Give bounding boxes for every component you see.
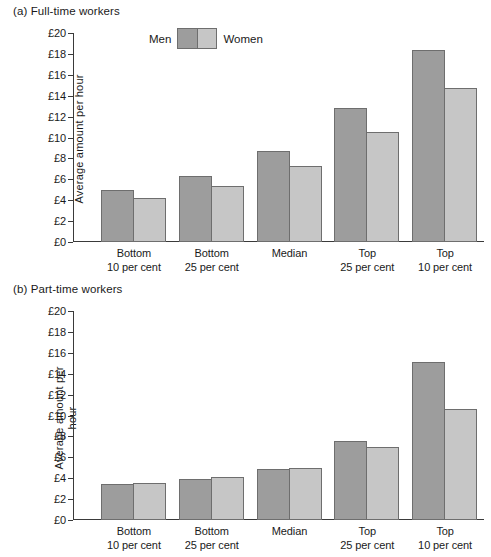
panel-b-plot-area: £20£18£16£14£12£10£8£6£4£2£0 Bottom 10 p… (73, 311, 484, 520)
y-axis-tick-label: £8 (54, 152, 66, 164)
y-axis-tick (68, 332, 73, 333)
y-axis-tick-label: £12 (48, 111, 66, 123)
bar-women-5 (444, 88, 477, 242)
chart-legend: Men Women (143, 28, 269, 49)
bar-group: Bottom 25 per cent (179, 33, 245, 242)
y-axis-tick-label: £2 (54, 493, 66, 505)
panel-a-y-axis-line (73, 33, 74, 242)
bar-men-2 (179, 479, 212, 520)
bar-women-1 (133, 483, 166, 520)
y-axis-tick-label: £4 (54, 194, 66, 206)
chart-panel-part-time: (b) Part-time workers Average amount per… (0, 278, 491, 557)
y-axis-tick-label: £14 (48, 368, 66, 380)
bar-men-5 (412, 50, 445, 242)
bar-group: Top 10 per cent (412, 33, 478, 242)
y-axis-tick-label: £12 (48, 389, 66, 401)
bar-men-3 (257, 469, 290, 520)
bar-men-2 (179, 176, 212, 242)
y-axis-tick (68, 179, 73, 180)
y-axis-tick-label: £20 (48, 27, 66, 39)
y-axis-tick (68, 96, 73, 97)
legend-label-women: Women (217, 33, 268, 45)
bar-group: Median (257, 311, 323, 520)
y-axis-tick (68, 520, 73, 521)
y-axis-tick-label: £10 (48, 132, 66, 144)
panel-b-title: (b) Part-time workers (13, 283, 122, 295)
legend-label-men: Men (143, 33, 177, 45)
y-axis-tick-label: £6 (54, 173, 66, 185)
bar-group: Top 25 per cent (334, 311, 400, 520)
y-axis-tick (68, 499, 73, 500)
panel-a-title: (a) Full-time workers (13, 5, 120, 17)
y-axis-tick (68, 416, 73, 417)
bar-women-3 (289, 166, 322, 242)
y-axis-tick-label: £0 (54, 236, 66, 248)
y-axis-tick (68, 75, 73, 76)
y-axis-tick (68, 200, 73, 201)
y-axis-tick-label: £18 (48, 48, 66, 60)
y-axis-tick (68, 33, 73, 34)
y-axis-tick (68, 54, 73, 55)
legend-swatch-women-icon (197, 28, 217, 49)
y-axis-tick (68, 138, 73, 139)
y-axis-tick-label: £18 (48, 326, 66, 338)
bar-men-3 (257, 151, 290, 242)
y-axis-tick (68, 221, 73, 222)
bar-women-1 (133, 198, 166, 242)
bar-women-4 (366, 447, 399, 520)
y-axis-tick (68, 117, 73, 118)
y-axis-tick (68, 242, 73, 243)
bar-men-4 (334, 441, 367, 520)
bar-women-2 (211, 477, 244, 520)
y-axis-tick-label: £6 (54, 451, 66, 463)
bar-women-2 (211, 186, 244, 242)
y-axis-tick (68, 478, 73, 479)
bar-women-3 (289, 468, 322, 520)
bar-men-1 (101, 190, 134, 242)
bar-group: Median (257, 33, 323, 242)
bar-men-1 (101, 484, 134, 520)
bar-women-4 (366, 132, 399, 242)
bar-women-5 (444, 409, 477, 520)
chart-panel-full-time: (a) Full-time workers Average amount per… (0, 0, 491, 278)
panel-a-plot-area: £20£18£16£14£12£10£8£6£4£2£0 Bottom 10 p… (73, 33, 484, 242)
y-axis-tick (68, 374, 73, 375)
bar-men-5 (412, 362, 445, 520)
y-axis-tick (68, 395, 73, 396)
y-axis-tick-label: £14 (48, 90, 66, 102)
y-axis-tick (68, 436, 73, 437)
y-axis-tick-label: £20 (48, 305, 66, 317)
y-axis-tick (68, 353, 73, 354)
x-axis-category-label: Top 10 per cent (380, 525, 491, 552)
bar-men-4 (334, 108, 367, 242)
bar-group: Bottom 25 per cent (179, 311, 245, 520)
panel-b-y-axis-line (73, 311, 74, 520)
y-axis-tick-label: £8 (54, 430, 66, 442)
bar-group: Bottom 10 per cent (101, 311, 167, 520)
y-axis-tick (68, 457, 73, 458)
y-axis-tick-label: £16 (48, 347, 66, 359)
y-axis-tick-label: £16 (48, 69, 66, 81)
y-axis-tick-label: £0 (54, 514, 66, 526)
legend-swatch-men-icon (177, 28, 197, 49)
y-axis-tick (68, 158, 73, 159)
bar-group: Top 25 per cent (334, 33, 400, 242)
bar-group: Bottom 10 per cent (101, 33, 167, 242)
y-axis-tick-label: £4 (54, 472, 66, 484)
bar-group: Top 10 per cent (412, 311, 478, 520)
y-axis-tick-label: £10 (48, 410, 66, 422)
x-axis-category-label: Top 10 per cent (380, 247, 491, 274)
y-axis-tick (68, 311, 73, 312)
y-axis-tick-label: £2 (54, 215, 66, 227)
